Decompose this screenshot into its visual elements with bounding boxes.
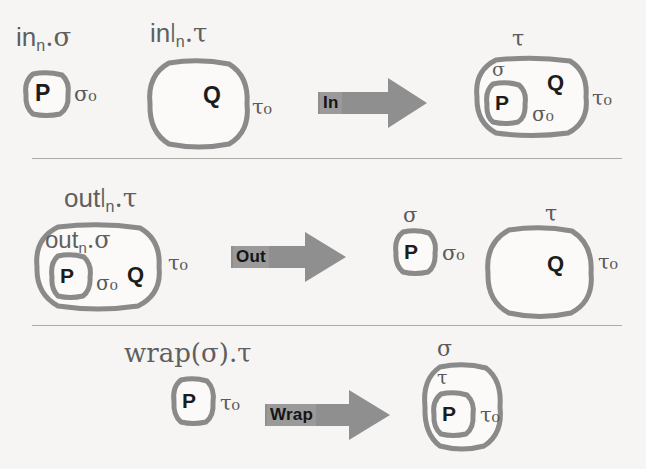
term-subscript: n (106, 197, 115, 215)
annotation-tau-zero: τ₀ (168, 253, 188, 274)
annotation-tau-zero: τ₀ (252, 97, 272, 118)
term-in-n-sigma: inn.σ (16, 24, 71, 54)
term-tail: .τ (115, 183, 138, 213)
arrow-in: In (318, 76, 428, 130)
annotation-sigma-outer-top: σ (437, 338, 452, 360)
annotation-tau-outer-top: τ (512, 28, 524, 50)
arrow-out-label: Out (233, 246, 269, 268)
arrow-wrap: Wrap (265, 388, 391, 442)
row-divider-1 (32, 158, 622, 159)
term-tail: .τ (185, 18, 208, 48)
process-label-q: Q (547, 72, 564, 94)
annotation-sigma-inner-top: σ (492, 60, 505, 79)
term-head: out (45, 226, 78, 253)
term-wrap-sigma-tau: wrap(σ).τ (124, 340, 252, 366)
term-head: out (64, 183, 100, 213)
term-head: in (16, 22, 36, 52)
term-subscript: n (36, 36, 45, 54)
process-label-p: P (495, 92, 509, 113)
arrow-in-label: In (320, 92, 342, 114)
process-label-q: Q (127, 264, 144, 286)
figure-canvas: inn.σ P σ₀ in|n.τ Q τ₀ In τ σ P σ₀ (0, 0, 646, 469)
annotation-sigma-zero: σ₀ (74, 84, 97, 105)
term-head: in (150, 18, 170, 48)
term-in-prime-n-tau: in|n.τ (150, 20, 207, 50)
annotation-sigma-top: σ (403, 205, 417, 226)
term-tail: .σ (87, 226, 111, 254)
term-tail: .σ (45, 22, 71, 52)
term-out-prime-n-tau: out|n.τ (64, 185, 137, 215)
term-subscript: n (176, 32, 185, 50)
row-divider-2 (32, 325, 622, 326)
annotation-tau-zero: τ₀ (220, 393, 240, 414)
process-label-p: P (35, 82, 50, 105)
term-head: wrap(σ) (124, 338, 229, 368)
blob-q-in-lhs (145, 58, 253, 150)
annotation-tau-zero: τ₀ (480, 405, 500, 426)
process-label-p: P (182, 390, 196, 411)
process-label-p: P (442, 403, 456, 424)
annotation-sigma-zero: σ₀ (442, 243, 465, 264)
arrow-out: Out (231, 230, 347, 284)
process-label-p: P (404, 241, 418, 262)
annotation-tau-zero: τ₀ (592, 88, 612, 109)
arrow-wrap-label: Wrap (267, 404, 316, 426)
term-tail: .τ (229, 338, 252, 368)
blob-q-out-rhs (483, 225, 598, 320)
annotation-tau-top: τ (545, 203, 557, 225)
annotation-tau-inner-top: τ (437, 368, 448, 387)
annotation-tau-zero: τ₀ (598, 252, 618, 273)
process-label-p: P (60, 265, 74, 286)
annotation-sigma-zero: σ₀ (96, 273, 118, 293)
process-label-q: Q (203, 84, 221, 107)
annotation-sigma-zero: σ₀ (532, 104, 554, 124)
process-label-q: Q (547, 253, 564, 275)
